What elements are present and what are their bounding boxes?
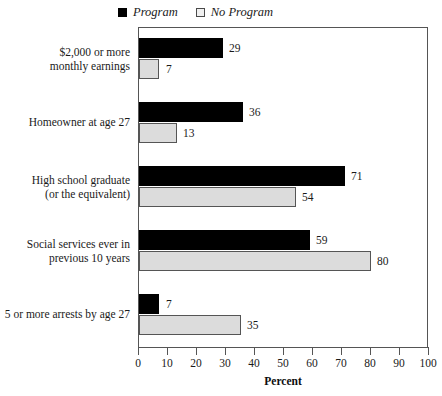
bar-program — [139, 166, 345, 186]
category-label-line2: monthly earnings — [0, 59, 130, 73]
x-axis-tick-label: 80 — [355, 357, 385, 370]
bar-value-program: 36 — [249, 102, 261, 122]
x-axis-tick-label: 50 — [268, 357, 298, 370]
x-axis-tick — [225, 347, 226, 355]
x-axis-tick-label: 10 — [152, 357, 182, 370]
x-axis-tick-label: 60 — [297, 357, 327, 370]
bar-no-program — [139, 59, 159, 79]
bar-value-program: 59 — [316, 230, 328, 250]
bar-group: 7 35 — [139, 294, 429, 336]
x-axis-tick-label: 90 — [384, 357, 414, 370]
bar-value-no-program: 7 — [166, 59, 172, 79]
bar-value-no-program: 80 — [377, 251, 389, 271]
x-axis-tick-label: 100 — [413, 357, 442, 370]
bar-value-program: 29 — [229, 38, 241, 58]
bar-value-no-program: 54 — [302, 187, 314, 207]
bar-no-program — [139, 251, 371, 271]
bar-program — [139, 294, 159, 314]
category-label: $2,000 or more monthly earnings — [0, 46, 130, 73]
x-axis-tick — [283, 347, 284, 355]
legend-label-no-program: No Program — [211, 6, 273, 19]
legend-item-program: Program — [118, 6, 178, 19]
chart-row-high-school: High school graduate (or the equivalent)… — [0, 155, 442, 219]
category-label: High school graduate (or the equivalent) — [0, 174, 130, 201]
x-axis-tick — [399, 347, 400, 355]
x-axis-tick — [196, 347, 197, 355]
bar-no-program — [139, 123, 177, 143]
x-axis-tick-label: 70 — [326, 357, 356, 370]
bar-program — [139, 230, 310, 250]
category-label: 5 or more arrests by age 27 — [0, 308, 130, 322]
bar-chart: Program No Program $2,000 or more monthl… — [0, 0, 442, 396]
chart-legend: Program No Program — [118, 3, 273, 21]
x-axis-tick — [370, 347, 371, 355]
legend-label-program: Program — [133, 6, 178, 19]
bar-program — [139, 38, 223, 58]
category-label-line2: (or the equivalent) — [0, 187, 130, 201]
bar-no-program — [139, 187, 296, 207]
legend-item-no-program: No Program — [196, 6, 273, 19]
category-label-line1: Homeowner at age 27 — [0, 116, 130, 130]
bar-no-program — [139, 315, 241, 335]
bar-value-no-program: 35 — [247, 315, 259, 335]
x-axis-title: Percent — [138, 375, 428, 387]
category-label: Homeowner at age 27 — [0, 116, 130, 130]
category-label-line2: previous 10 years — [0, 251, 130, 265]
x-axis-tick — [428, 347, 429, 355]
category-label-line1: High school graduate — [0, 174, 130, 188]
x-axis-tick — [341, 347, 342, 355]
bar-value-program: 7 — [166, 294, 172, 314]
bar-group: 71 54 — [139, 166, 429, 208]
bar-group: 29 7 — [139, 38, 429, 80]
x-axis-tick-label: 30 — [210, 357, 240, 370]
x-axis-tick-label: 40 — [239, 357, 269, 370]
x-axis-tick — [138, 347, 139, 355]
x-axis-tick — [167, 347, 168, 355]
category-label-line1: 5 or more arrests by age 27 — [0, 308, 130, 322]
chart-row-social-services: Social services ever in previous 10 year… — [0, 219, 442, 283]
x-axis-tick-label: 0 — [123, 357, 153, 370]
chart-row-homeowner: Homeowner at age 27 36 13 — [0, 91, 442, 155]
bar-group: 59 80 — [139, 230, 429, 272]
category-label-line1: $2,000 or more — [0, 46, 130, 60]
category-label: Social services ever in previous 10 year… — [0, 238, 130, 265]
legend-swatch-filled-square-icon — [118, 8, 127, 17]
category-label-line1: Social services ever in — [0, 238, 130, 252]
legend-swatch-open-square-icon — [196, 8, 205, 17]
chart-row-earnings: $2,000 or more monthly earnings 29 7 — [0, 27, 442, 91]
chart-row-arrests: 5 or more arrests by age 27 7 35 — [0, 283, 442, 347]
bar-group: 36 13 — [139, 102, 429, 144]
bar-value-no-program: 13 — [183, 123, 195, 143]
bar-program — [139, 102, 243, 122]
x-axis-tick — [254, 347, 255, 355]
bar-value-program: 71 — [351, 166, 363, 186]
x-axis-tick — [312, 347, 313, 355]
x-axis-tick-label: 20 — [181, 357, 211, 370]
